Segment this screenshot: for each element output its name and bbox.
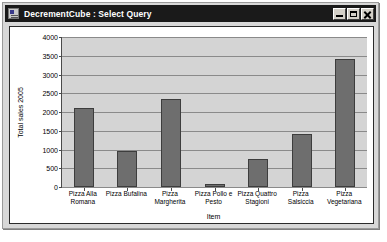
- bar-slot: [280, 37, 324, 187]
- bar-slot: [62, 37, 106, 187]
- y-tick-label: 1000: [42, 146, 58, 153]
- y-tick-label: 3500: [42, 52, 58, 59]
- bar-slot: [193, 37, 237, 187]
- bar[interactable]: [335, 59, 355, 187]
- window-controls: [333, 8, 374, 20]
- y-tick-label: 2500: [42, 90, 58, 97]
- query-window: DecrementCube : Select Query Total sales…: [2, 2, 379, 229]
- query-icon: [8, 8, 19, 19]
- y-axis-title-text: Total sales 2005: [17, 87, 24, 138]
- bar-series: [62, 37, 367, 187]
- bar-slot: [323, 37, 367, 187]
- y-axis-title: Total sales 2005: [14, 37, 26, 187]
- x-axis-tick-labels: Pizza Alla RomanaPizza BufalinaPizza Mar…: [61, 190, 366, 206]
- bar[interactable]: [205, 184, 225, 187]
- bar[interactable]: [292, 134, 312, 187]
- x-tick-label: Pizza Alla Romana: [61, 190, 105, 206]
- x-axis-title: Item: [61, 213, 366, 220]
- bar-slot: [236, 37, 280, 187]
- x-tick-label: Pizza Vegetariana: [322, 190, 366, 206]
- y-tick-mark: [59, 187, 62, 188]
- minimize-icon[interactable]: [333, 8, 346, 20]
- bar-slot: [149, 37, 193, 187]
- bar[interactable]: [74, 108, 94, 187]
- window-titlebar: DecrementCube : Select Query: [5, 5, 376, 22]
- x-tick-label: Pizza Salsiccia: [279, 190, 323, 206]
- close-icon[interactable]: [361, 8, 374, 20]
- y-tick-label: 1500: [42, 127, 58, 134]
- chart-canvas: Total sales 2005 05001000150020002500300…: [9, 26, 374, 224]
- maximize-icon[interactable]: [347, 8, 360, 20]
- x-tick-label: Pizza Quattro Stagioni: [235, 190, 279, 206]
- y-tick-label: 0: [54, 184, 58, 191]
- plot-area: 05001000150020002500300035004000: [61, 37, 367, 188]
- bar-slot: [106, 37, 150, 187]
- x-tick-label: Pizza Pollo e Pesto: [192, 190, 236, 206]
- y-tick-label: 4000: [42, 34, 58, 41]
- y-tick-label: 500: [46, 165, 58, 172]
- y-tick-label: 3000: [42, 71, 58, 78]
- x-tick-label: Pizza Margherita: [148, 190, 192, 206]
- bar[interactable]: [117, 151, 137, 187]
- y-tick-label: 2000: [42, 109, 58, 116]
- bar[interactable]: [248, 159, 268, 187]
- x-tick-label: Pizza Bufalina: [105, 190, 149, 206]
- window-title: DecrementCube : Select Query: [24, 9, 333, 19]
- bar[interactable]: [161, 99, 181, 187]
